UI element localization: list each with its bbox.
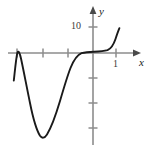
curve-path xyxy=(14,28,120,137)
y-axis-label: y xyxy=(99,6,104,17)
x-axis xyxy=(8,49,141,56)
x-tick-label-1: 1 xyxy=(113,59,118,69)
y-tick-label-10: 10 xyxy=(71,21,81,31)
x-axis-label: x xyxy=(139,57,144,68)
graph-figure: y x 10 1 xyxy=(0,0,154,151)
